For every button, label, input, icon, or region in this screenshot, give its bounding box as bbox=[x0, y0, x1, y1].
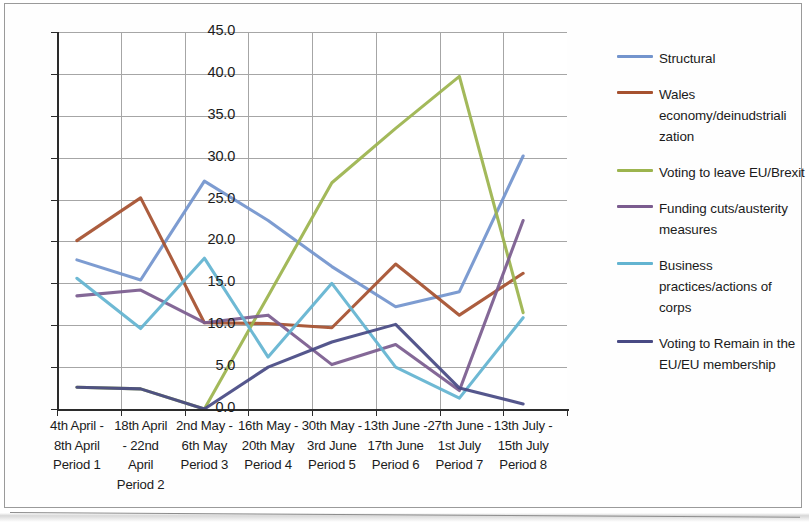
y-tick-label: 30.0 bbox=[191, 148, 235, 164]
legend-item-1[interactable]: Structural bbox=[617, 48, 807, 69]
y-tick-label: 45.0 bbox=[191, 22, 235, 38]
legend-label: Voting to leave EU/Brexit bbox=[659, 162, 805, 183]
x-tick-label-line: 15th July bbox=[477, 436, 569, 456]
y-tick-mark bbox=[51, 367, 57, 368]
y-tick-mark bbox=[51, 158, 57, 159]
x-axis bbox=[57, 409, 569, 411]
x-tick-label-8: 13th July -15th JulyPeriod 8 bbox=[477, 416, 569, 475]
y-tick-label: 10.0 bbox=[191, 315, 235, 331]
legend-item-3[interactable]: Voting to leave EU/Brexit bbox=[617, 162, 807, 183]
legend-swatch-icon bbox=[617, 262, 653, 265]
x-tick-label-line: Period 8 bbox=[477, 455, 569, 475]
y-tick-mark bbox=[51, 116, 57, 117]
legend-label: Structural bbox=[659, 48, 715, 69]
legend-swatch-icon bbox=[617, 169, 653, 172]
plot-area bbox=[57, 32, 567, 409]
series-line-1 bbox=[77, 156, 523, 307]
y-tick-label: 0.0 bbox=[191, 399, 235, 415]
legend-swatch-icon bbox=[617, 55, 653, 58]
series-line-2 bbox=[77, 198, 523, 328]
y-tick-label: 5.0 bbox=[191, 357, 235, 373]
x-tick-label-line: 13th July - bbox=[477, 416, 569, 436]
x-tick-mark bbox=[121, 409, 122, 416]
chart-legend: StructuralWales economy/deinudstriali za… bbox=[617, 48, 807, 390]
y-tick-label: 15.0 bbox=[191, 273, 235, 289]
y-tick-label: 20.0 bbox=[191, 231, 235, 247]
y-axis bbox=[57, 32, 59, 411]
legend-item-2[interactable]: Wales economy/deinudstriali zation bbox=[617, 84, 807, 147]
series-lines bbox=[57, 32, 567, 409]
y-tick-mark bbox=[51, 283, 57, 284]
x-tick-mark bbox=[248, 409, 249, 416]
scan-edge-shadow bbox=[0, 508, 809, 522]
legend-label: Voting to Remain in the EU/EU membership bbox=[659, 333, 805, 375]
y-tick-label: 25.0 bbox=[191, 190, 235, 206]
x-tick-mark bbox=[57, 409, 58, 416]
x-tick-mark bbox=[440, 409, 441, 416]
y-tick-mark bbox=[51, 241, 57, 242]
x-tick-mark bbox=[376, 409, 377, 416]
x-tick-mark bbox=[503, 409, 504, 416]
y-tick-label: 35.0 bbox=[191, 106, 235, 122]
legend-swatch-icon bbox=[617, 91, 653, 94]
legend-item-5[interactable]: Business practices/actions of corps bbox=[617, 255, 807, 318]
series-line-5 bbox=[77, 258, 523, 398]
legend-swatch-icon bbox=[617, 205, 653, 208]
x-tick-mark bbox=[567, 409, 568, 416]
series-line-4 bbox=[77, 221, 523, 391]
x-tick-label-line: Period 2 bbox=[95, 475, 187, 495]
x-tick-mark bbox=[185, 409, 186, 416]
y-tick-mark bbox=[51, 32, 57, 33]
y-tick-mark bbox=[51, 200, 57, 201]
y-tick-mark bbox=[51, 325, 57, 326]
chart-frame: 45.040.035.030.025.020.015.010.05.00.0 4… bbox=[4, 3, 802, 508]
legend-item-4[interactable]: Funding cuts/austerity measures bbox=[617, 198, 807, 240]
y-tick-label: 40.0 bbox=[191, 64, 235, 80]
legend-item-6[interactable]: Voting to Remain in the EU/EU membership bbox=[617, 333, 807, 375]
legend-label: Business practices/actions of corps bbox=[659, 255, 805, 318]
x-tick-mark bbox=[312, 409, 313, 416]
legend-label: Wales economy/deinudstriali zation bbox=[659, 84, 805, 147]
legend-swatch-icon bbox=[617, 340, 653, 343]
y-tick-mark bbox=[51, 74, 57, 75]
legend-label: Funding cuts/austerity measures bbox=[659, 198, 805, 240]
